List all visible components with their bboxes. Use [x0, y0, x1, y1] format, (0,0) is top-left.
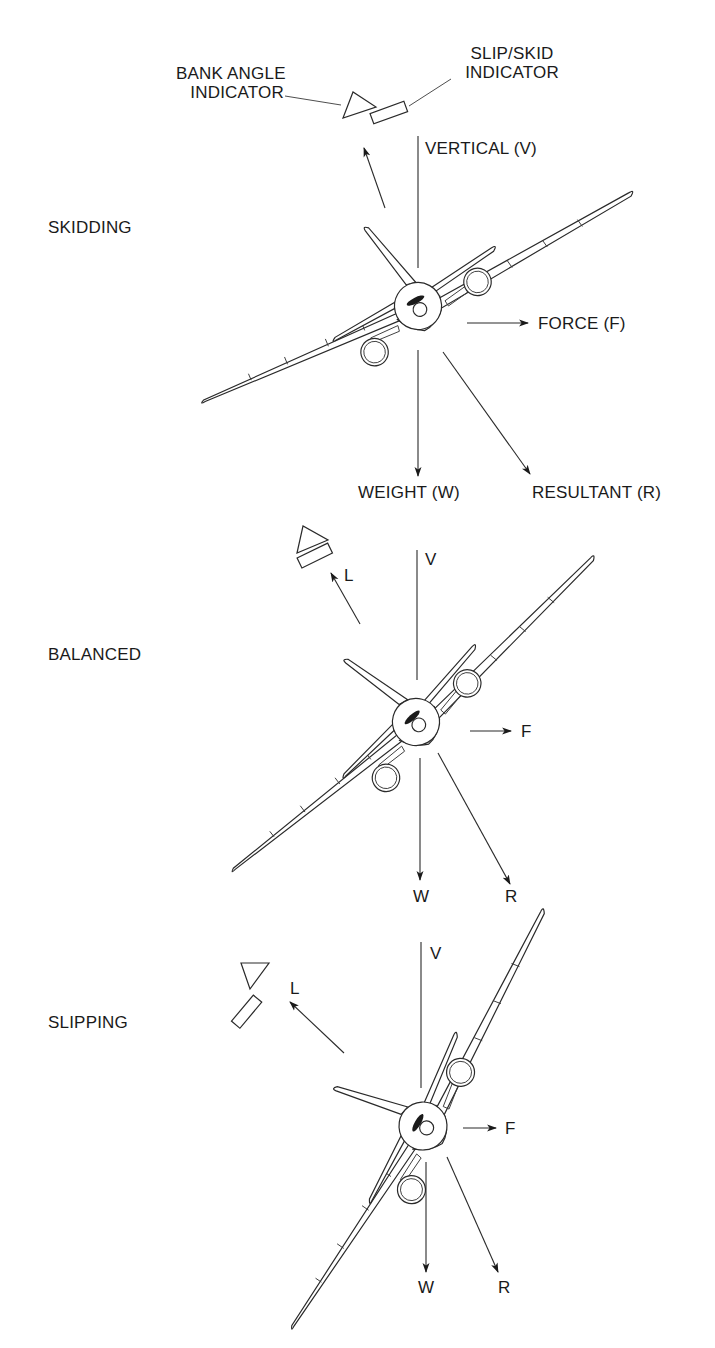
slip-skid-callout: SLIP/SKID INDICATOR — [452, 44, 572, 82]
slip-skid-callout-line2: INDICATOR — [452, 63, 572, 82]
slip-skid-indicator-icon — [370, 101, 408, 124]
panel-balanced — [168, 526, 644, 884]
slip-skid-indicator-icon — [231, 995, 261, 1028]
force-label: F — [521, 722, 532, 741]
weight-label: W — [418, 1278, 434, 1297]
bank-angle-indicator-icon — [241, 963, 269, 989]
vertical-label: V — [430, 944, 442, 963]
lift-label: L — [344, 566, 354, 585]
force-label: F — [505, 1119, 516, 1138]
lift-label: L — [290, 979, 300, 998]
diagram-artwork — [0, 0, 715, 1348]
vertical-label: V — [425, 550, 437, 569]
panel-title-skidding: SKIDDING — [48, 218, 132, 237]
resultant-label: RESULTANT (R) — [532, 483, 661, 502]
force-label: FORCE (F) — [538, 314, 626, 333]
force-diagram: BANK ANGLE INDICATOR SLIP/SKID INDICATOR… — [0, 0, 715, 1348]
bank-angle-callout: BANK ANGLE INDICATOR — [176, 64, 284, 102]
panel-title-balanced: BALANCED — [48, 645, 141, 664]
bank-angle-callout-line1: BANK ANGLE — [176, 64, 284, 83]
panel-skidding — [169, 79, 659, 476]
panel-title-slipping: SLIPPING — [48, 1013, 128, 1032]
resultant-label: R — [505, 887, 517, 906]
weight-label: W — [413, 887, 429, 906]
vertical-label: VERTICAL (V) — [425, 139, 537, 158]
weight-label: WEIGHT (W) — [358, 483, 460, 502]
slip-skid-callout-line1: SLIP/SKID — [452, 44, 572, 63]
panel-slipping — [195, 885, 620, 1336]
bank-angle-callout-line2: INDICATOR — [176, 83, 284, 102]
resultant-label: R — [498, 1278, 510, 1297]
